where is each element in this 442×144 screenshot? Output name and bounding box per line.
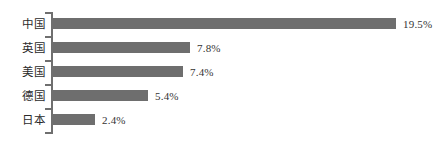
bar-row: 德国 5.4%	[0, 84, 442, 108]
bar-chart: 中国 19.5% 英国 7.8% 美国 7.4% 德国 5.4% 日本 2.4%	[0, 0, 442, 144]
category-label: 日本	[0, 108, 45, 132]
bar-value-label: 7.8%	[197, 36, 221, 60]
category-label: 中国	[0, 12, 45, 36]
bar[interactable]	[53, 42, 190, 53]
category-label: 英国	[0, 36, 45, 60]
bar[interactable]	[53, 66, 183, 77]
category-label: 德国	[0, 84, 45, 108]
axis-tick	[45, 132, 51, 134]
plot-area: 中国 19.5% 英国 7.8% 美国 7.4% 德国 5.4% 日本 2.4%	[0, 0, 442, 144]
category-label: 美国	[0, 60, 45, 84]
bar[interactable]	[53, 18, 396, 29]
bar-row: 日本 2.4%	[0, 108, 442, 132]
bar-value-label: 19.5%	[403, 12, 432, 36]
bar-value-label: 7.4%	[190, 60, 214, 84]
bar-value-label: 2.4%	[102, 108, 126, 132]
bar[interactable]	[53, 114, 95, 125]
bar[interactable]	[53, 90, 148, 101]
bar-row: 英国 7.8%	[0, 36, 442, 60]
bar-row: 中国 19.5%	[0, 12, 442, 36]
bar-row: 美国 7.4%	[0, 60, 442, 84]
bar-value-label: 5.4%	[155, 84, 179, 108]
